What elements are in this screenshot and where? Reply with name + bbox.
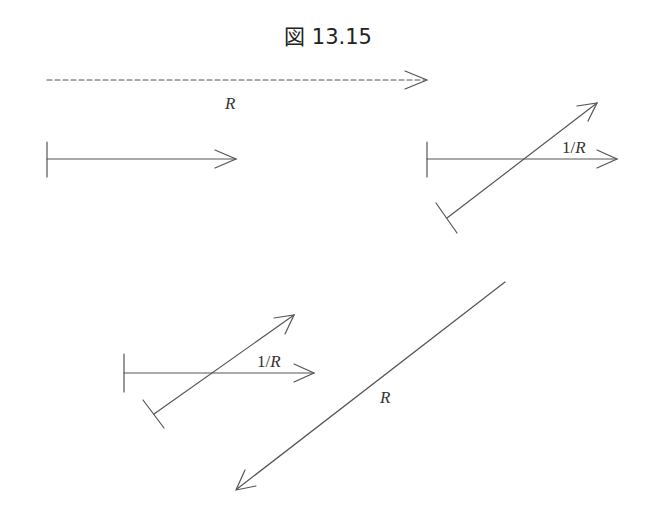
- dashed-arrow-label: R: [224, 94, 236, 113]
- bottom-left-horizontal-vector: [124, 354, 314, 392]
- top-right-horizontal-vector: [427, 142, 617, 177]
- long-arrow-label: R: [379, 388, 391, 407]
- dashed-arrow: [47, 71, 427, 89]
- reference-vector: [47, 142, 236, 177]
- vector-diagram: R 1/R 1/R R: [0, 0, 656, 523]
- top-right-diagonal-vector: [436, 103, 597, 233]
- bottom-left-diagonal-vector: [143, 315, 294, 428]
- bottom-left-label: 1/R: [257, 352, 281, 371]
- long-diagonal-vector: [236, 282, 505, 490]
- top-right-label: 1/R: [562, 138, 586, 157]
